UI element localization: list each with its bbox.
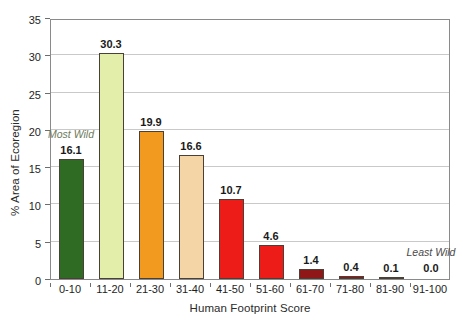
bar-value-label: 0.1: [383, 262, 398, 274]
bar: [299, 269, 324, 279]
bar-value-label: 16.1: [60, 144, 81, 156]
annotation-label: Least Wild: [407, 246, 456, 258]
bar-value-label: 30.3: [100, 38, 121, 50]
y-axis-tick-label: 15: [0, 163, 41, 175]
bar: [99, 53, 124, 279]
bar: [179, 155, 204, 279]
y-axis-tick-label: 5: [0, 238, 41, 250]
bar: [339, 276, 364, 279]
y-axis-tick-label: 25: [0, 89, 41, 101]
x-axis-tick-label: 81-90: [376, 283, 404, 295]
x-axis-tick-labels: 0-1011-2021-3031-4041-5051-6061-7071-808…: [50, 283, 450, 301]
x-axis-tick-label: 91-100: [413, 283, 447, 295]
plot-area: 16.130.319.916.610.74.61.40.40.10.0 Most…: [50, 19, 450, 280]
x-axis-tick-mark: [290, 283, 291, 287]
x-axis-tick-mark: [210, 283, 211, 287]
bar-value-label: 19.9: [140, 116, 161, 128]
x-axis-tick-mark: [410, 283, 411, 287]
x-axis-tick-label: 71-80: [336, 283, 364, 295]
bar: [59, 159, 84, 279]
x-axis-tick-label: 31-40: [176, 283, 204, 295]
y-axis-tick-label: 10: [0, 200, 41, 212]
x-axis-tick-label: 11-20: [96, 283, 123, 295]
bar-value-label: 0.4: [343, 261, 358, 273]
x-axis-tick-label: 0-10: [59, 283, 81, 295]
bar: [139, 131, 164, 279]
x-axis-tick-mark: [330, 283, 331, 287]
bar-value-label: 10.7: [220, 184, 241, 196]
y-axis-tick-label: 35: [0, 14, 41, 26]
bar-value-label: 1.4: [303, 254, 318, 266]
x-axis-tick-mark: [250, 283, 251, 287]
bar: [259, 245, 284, 279]
annotation-label: Most Wild: [48, 128, 94, 140]
x-axis-tick-label: 61-70: [296, 283, 324, 295]
x-axis-tick-mark: [370, 283, 371, 287]
y-axis-tick-label: 30: [0, 51, 41, 63]
y-axis-tick-label: 20: [0, 126, 41, 138]
x-axis-tick-label: 51-60: [256, 283, 284, 295]
x-axis-tick-label: 41-50: [216, 283, 244, 295]
bar-value-label: 0.0: [423, 262, 438, 274]
x-axis-tick-mark: [50, 283, 51, 287]
human-footprint-bar-chart: % Area of Ecoregion 05101520253035 16.13…: [0, 0, 463, 325]
x-axis-tick-mark: [170, 283, 171, 287]
x-axis-title: Human Footprint Score: [50, 302, 450, 314]
bar-value-label: 16.6: [180, 140, 201, 152]
y-axis-tick-labels: 05101520253035: [0, 19, 50, 280]
x-axis-tick-mark: [130, 283, 131, 287]
y-axis-tick-label: 0: [0, 275, 41, 287]
x-axis-tick-mark: [90, 283, 91, 287]
bar: [379, 277, 404, 279]
bar-value-label: 4.6: [263, 230, 278, 242]
x-axis-tick-label: 21-30: [136, 283, 164, 295]
bar: [219, 199, 244, 279]
